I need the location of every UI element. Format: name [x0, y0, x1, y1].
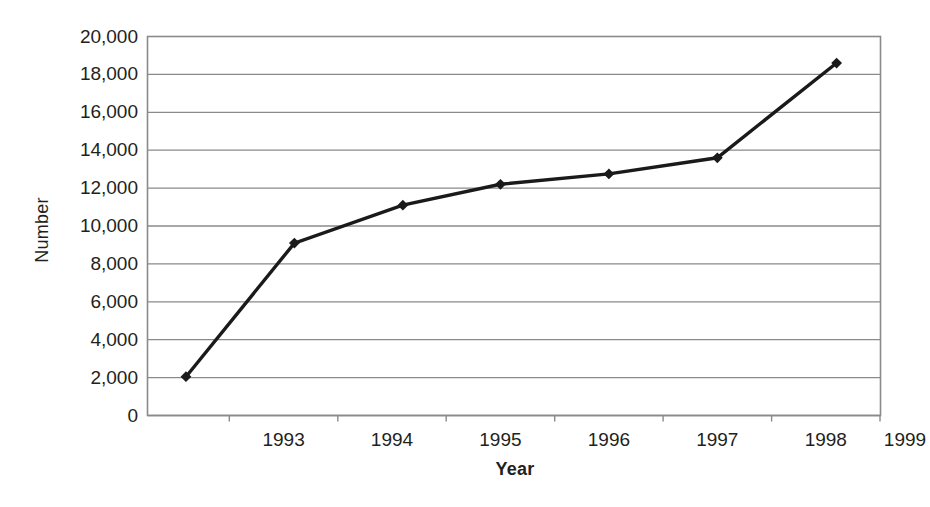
- x-axis-tick-label: 1993: [262, 430, 304, 449]
- x-axis-tick-label: 1998: [805, 430, 847, 449]
- x-axis-tick-label: 1997: [696, 430, 738, 449]
- x-axis-tick-label: 1994: [371, 430, 413, 449]
- x-axis-tick-label: 1996: [588, 430, 630, 449]
- x-axis-tick-label: 1999: [884, 430, 926, 449]
- x-axis-title: Year: [0, 459, 930, 480]
- x-axis-tick-label: 1995: [479, 430, 521, 449]
